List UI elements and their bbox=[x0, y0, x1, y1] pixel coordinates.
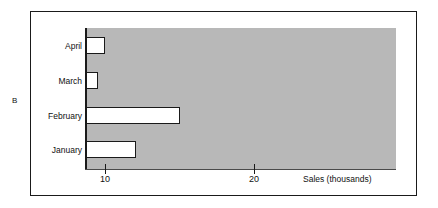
category-label-february: February bbox=[2, 111, 82, 122]
x-tick-label-20: 20 bbox=[249, 174, 259, 184]
x-tick-10 bbox=[105, 164, 106, 174]
x-tick-label-10: 10 bbox=[100, 174, 110, 184]
bar-chart-figure: B April March February January 10 20 Sal… bbox=[0, 0, 438, 208]
bar-march[interactable] bbox=[86, 72, 98, 89]
category-label-january: January bbox=[2, 145, 82, 156]
bar-january[interactable] bbox=[86, 141, 136, 158]
category-label-april: April bbox=[2, 41, 82, 52]
bar-april[interactable] bbox=[86, 37, 105, 54]
x-axis-title: Sales (thousands) bbox=[303, 174, 372, 184]
value-axis-line bbox=[85, 169, 396, 170]
x-tick-20 bbox=[254, 164, 255, 174]
bar-february[interactable] bbox=[86, 107, 180, 124]
category-axis-labels: April March February January bbox=[0, 0, 82, 208]
category-label-march: March bbox=[2, 76, 82, 87]
